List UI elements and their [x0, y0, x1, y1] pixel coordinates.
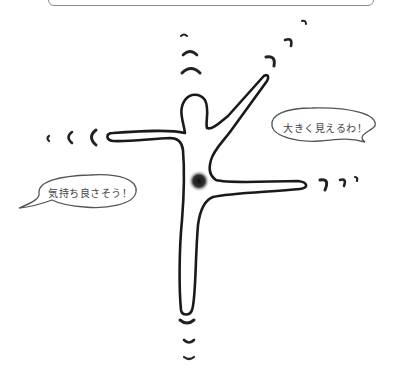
motion-marks-left: [48, 130, 97, 145]
motion-marks-down: [180, 320, 194, 359]
motion-marks-up: [181, 35, 200, 74]
body-outline: [107, 75, 306, 314]
motion-marks-up-right: [266, 21, 306, 66]
speech-bubble-right-text: 大きく見えるわ！: [283, 120, 367, 135]
motion-marks-right: [320, 177, 357, 190]
speech-bubble-left-text: 気持ち良さそう！: [48, 185, 132, 200]
illustration: 大きく見えるわ！ 気持ち良さそう！: [0, 0, 401, 381]
core-focus-dot: [188, 170, 210, 192]
